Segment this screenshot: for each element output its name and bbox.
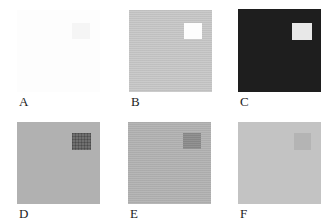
- panel-d-field: [17, 122, 100, 204]
- panel-c-field: [238, 9, 321, 92]
- panel-a: A: [17, 10, 100, 92]
- panel-e-label: E: [130, 206, 150, 222]
- panel-a-field: [17, 10, 100, 92]
- panel-b: B: [129, 10, 212, 92]
- panel-b-label: B: [131, 94, 151, 110]
- panel-f: F: [238, 122, 321, 204]
- panel-d-label: D: [19, 206, 39, 222]
- panel-e-patch: [183, 133, 201, 149]
- panel-e: E: [128, 122, 211, 204]
- panel-c: C: [238, 9, 321, 92]
- panel-a-label: A: [19, 94, 39, 110]
- panel-a-patch: [72, 23, 90, 39]
- panel-b-field: [129, 10, 212, 92]
- panel-c-patch: [292, 23, 312, 40]
- panel-c-label: C: [240, 94, 260, 110]
- panel-f-patch: [294, 133, 311, 150]
- panel-d-patch: [72, 133, 91, 150]
- panel-d: D: [17, 122, 100, 204]
- panel-f-field: [238, 122, 321, 204]
- panel-b-patch: [184, 23, 202, 39]
- panel-e-field: [128, 122, 211, 204]
- panel-f-label: F: [240, 206, 260, 222]
- contrast-panels-figure: A B C D E F: [0, 0, 336, 223]
